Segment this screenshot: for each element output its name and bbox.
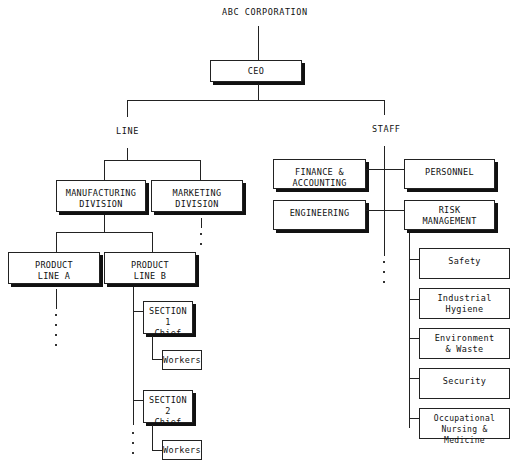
- finance-accounting-box[interactable]: FINANCE & ACCOUNTING: [273, 159, 366, 189]
- connector-line: [133, 400, 143, 401]
- risk-unit-occupational-nursing-box[interactable]: Occupational Nursing & Medicine: [419, 408, 510, 439]
- engineering-box[interactable]: ENGINEERING: [273, 200, 366, 230]
- connector-line: [200, 160, 201, 180]
- continuation-dot: [55, 314, 57, 316]
- connector-line: [127, 100, 385, 101]
- connector-line: [366, 169, 404, 170]
- connector-line: [384, 100, 385, 115]
- continuation-dot: [55, 334, 57, 336]
- staff-spine-line: [384, 146, 385, 256]
- continuation-dot: [200, 233, 202, 235]
- section-1-workers-box[interactable]: Workers: [162, 350, 202, 370]
- marketing-division-box[interactable]: MARKETING DIVISION: [151, 180, 243, 212]
- risk-management-box[interactable]: RISK MANAGEMENT: [404, 200, 495, 230]
- continuation-dot: [383, 261, 385, 263]
- connector-line: [133, 287, 134, 425]
- ceo-box[interactable]: CEO: [210, 60, 302, 82]
- risk-unit-security-box[interactable]: Security: [419, 368, 510, 399]
- continuation-dot: [383, 271, 385, 273]
- product-line-a-box[interactable]: PRODUCT LINE A: [8, 252, 100, 284]
- connector-line: [201, 218, 202, 228]
- connector-line: [152, 425, 153, 450]
- connector-line: [104, 160, 105, 180]
- risk-spine-line: [409, 233, 410, 428]
- connector-line: [366, 210, 404, 211]
- continuation-dot: [132, 442, 134, 444]
- connector-line: [152, 336, 153, 359]
- connector-line: [409, 418, 419, 419]
- staff-label: STAFF: [372, 124, 401, 134]
- connector-line: [56, 232, 153, 233]
- org-title: ABC CORPORATION: [222, 7, 308, 17]
- continuation-dot: [55, 344, 57, 346]
- connector-line: [152, 232, 153, 252]
- connector-line: [409, 338, 419, 339]
- manufacturing-division-box[interactable]: MANUFACTURING DIVISION: [56, 180, 146, 212]
- connector-line: [104, 160, 201, 161]
- personnel-box[interactable]: PERSONNEL: [404, 159, 495, 189]
- connector-line: [152, 359, 162, 360]
- section-1-chief-box[interactable]: SECTION 1 Chief: [143, 301, 193, 334]
- connector-line: [409, 378, 419, 379]
- connector-line: [258, 84, 259, 100]
- section-2-chief-box[interactable]: SECTION 2 Chief: [143, 390, 193, 423]
- continuation-dot: [132, 452, 134, 454]
- continuation-dot: [132, 432, 134, 434]
- continuation-dot: [383, 281, 385, 283]
- connector-line: [56, 232, 57, 252]
- risk-unit-safety-box[interactable]: Safety: [419, 248, 510, 279]
- line-label: LINE: [116, 126, 139, 136]
- connector-line: [127, 148, 128, 160]
- connector-line: [409, 259, 419, 260]
- connector-line: [152, 450, 162, 451]
- connector-line: [104, 215, 105, 232]
- connector-line: [409, 299, 419, 300]
- continuation-dot: [55, 324, 57, 326]
- connector-line: [56, 289, 57, 309]
- connector-line: [258, 26, 259, 60]
- risk-unit-industrial-hygiene-box[interactable]: Industrial Hygiene: [419, 288, 510, 319]
- section-2-workers-box[interactable]: Workers: [162, 440, 202, 460]
- connector-line: [133, 311, 143, 312]
- continuation-dot: [200, 243, 202, 245]
- risk-unit-environment-waste-box[interactable]: Environment & Waste: [419, 328, 510, 359]
- product-line-b-box[interactable]: PRODUCT LINE B: [104, 252, 196, 284]
- connector-line: [127, 100, 128, 117]
